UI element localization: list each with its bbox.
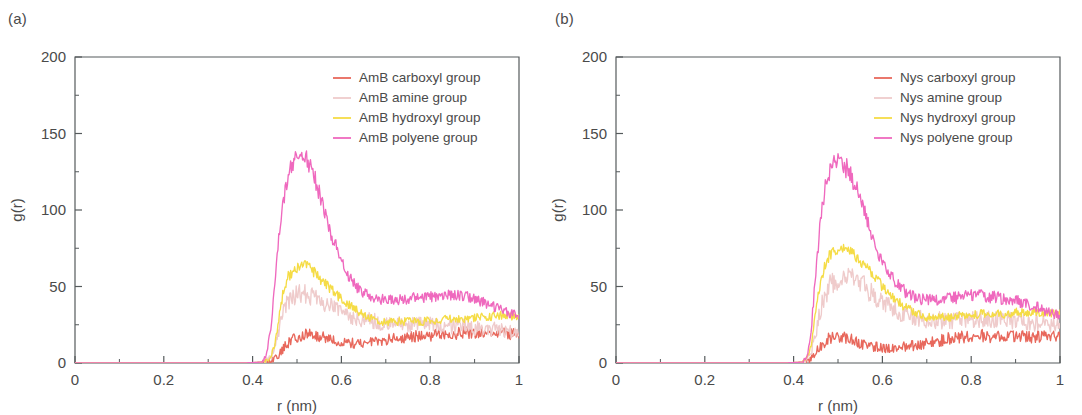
x-axis-title: r (nm)	[277, 397, 317, 414]
x-axis-title: r (nm)	[818, 397, 858, 414]
x-axis: 00.20.40.60.81	[71, 356, 523, 388]
legend-item[interactable]: AmB hydroxyl group	[333, 110, 481, 125]
y-tick-label: 50	[590, 278, 607, 295]
plot-b: 05010015020000.20.40.60.81r (nm)g(r)Nys …	[541, 0, 1082, 415]
x-tick-label: 0	[612, 371, 620, 388]
legend-item[interactable]: AmB amine group	[333, 90, 467, 105]
panel-a: (a)05010015020000.20.40.60.81r (nm)g(r)A…	[0, 0, 541, 415]
legend-label: AmB amine group	[359, 90, 467, 105]
legend-item[interactable]: AmB polyene group	[333, 130, 478, 145]
legend-label: AmB polyene group	[359, 130, 478, 145]
rdf-figure: (a)05010015020000.20.40.60.81r (nm)g(r)A…	[0, 0, 1082, 415]
y-axis: 050100150200	[582, 48, 623, 371]
y-axis-title: g(r)	[8, 198, 25, 221]
y-tick-label: 100	[41, 201, 66, 218]
legend-item[interactable]: AmB carboxyl group	[333, 70, 481, 85]
legend-label: Nys amine group	[900, 90, 1002, 105]
legend-item[interactable]: Nys amine group	[874, 90, 1002, 105]
y-tick-label: 0	[58, 354, 66, 371]
legend: AmB carboxyl groupAmB amine groupAmB hyd…	[333, 70, 481, 145]
legend-item[interactable]: Nys polyene group	[874, 130, 1013, 145]
y-tick-label: 50	[49, 278, 66, 295]
x-tick-label: 0.8	[420, 371, 441, 388]
curves	[616, 154, 1060, 363]
legend-label: Nys carboxyl group	[900, 70, 1016, 85]
x-tick-label: 0.6	[331, 371, 352, 388]
x-tick-label: 0.6	[872, 371, 893, 388]
x-tick-label: 0.8	[961, 371, 982, 388]
y-tick-label: 0	[599, 354, 607, 371]
y-tick-label: 150	[41, 125, 66, 142]
y-tick-label: 200	[582, 48, 607, 65]
series-line	[616, 329, 1060, 363]
x-tick-label: 0.2	[153, 371, 174, 388]
series-line	[75, 261, 519, 363]
series-line	[616, 154, 1060, 363]
legend-label: AmB hydroxyl group	[359, 110, 481, 125]
x-tick-label: 0.4	[783, 371, 804, 388]
x-tick-label: 1	[1056, 371, 1064, 388]
legend-item[interactable]: Nys carboxyl group	[874, 70, 1016, 85]
curves	[75, 151, 519, 363]
y-tick-label: 200	[41, 48, 66, 65]
x-tick-label: 0.2	[694, 371, 715, 388]
y-axis-title: g(r)	[549, 198, 566, 221]
legend-item[interactable]: Nys hydroxyl group	[874, 110, 1016, 125]
x-tick-label: 0.4	[242, 371, 263, 388]
series-line	[616, 244, 1060, 363]
x-tick-label: 0	[71, 371, 79, 388]
plot-a: 05010015020000.20.40.60.81r (nm)g(r)AmB …	[0, 0, 541, 415]
x-axis: 00.20.40.60.81	[612, 356, 1064, 388]
legend-label: AmB carboxyl group	[359, 70, 481, 85]
legend-label: Nys hydroxyl group	[900, 110, 1016, 125]
panel-b: (b)05010015020000.20.40.60.81r (nm)g(r)N…	[541, 0, 1082, 415]
legend-label: Nys polyene group	[900, 130, 1013, 145]
y-tick-label: 100	[582, 201, 607, 218]
legend: Nys carboxyl groupNys amine groupNys hyd…	[874, 70, 1016, 145]
x-tick-label: 1	[515, 371, 523, 388]
y-tick-label: 150	[582, 125, 607, 142]
y-axis: 050100150200	[41, 48, 82, 371]
